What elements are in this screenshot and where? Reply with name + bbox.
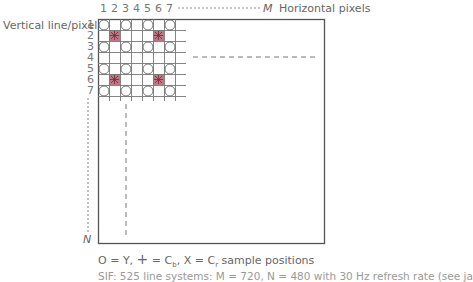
legend: O = Y, + = Cb, X = Cr sample positions [98, 252, 314, 269]
luma-text: = Y, [110, 254, 133, 267]
cb-symbol: + [137, 251, 149, 267]
caption: SIF: 525 line systems: M = 720, N = 480 … [98, 271, 473, 282]
cr-symbol: , X [177, 254, 192, 267]
frame-border [99, 20, 325, 244]
chroma-marks [110, 31, 163, 84]
cb-text: = C [152, 254, 172, 267]
luma-symbol: O [98, 254, 107, 267]
legend-tail: sample positions [222, 254, 315, 267]
cr-subscript: r [215, 261, 218, 269]
cr-text: = C [195, 254, 215, 267]
